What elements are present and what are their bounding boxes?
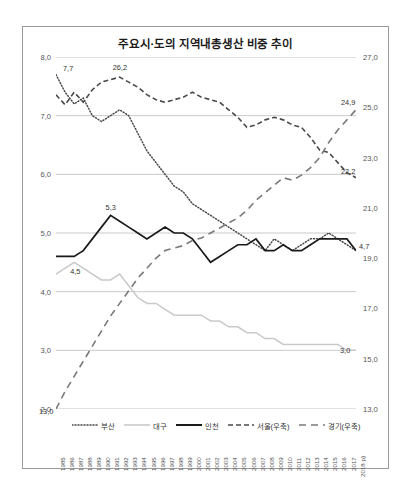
- x-tick-label: 2018 p): [359, 456, 366, 477]
- y-tick-left: 4,0: [25, 288, 51, 297]
- legend-label: 인천: [205, 420, 219, 431]
- legend-swatch-icon: [228, 421, 254, 429]
- chart-title: 주요시·도의 지역내총생산 비중 추이: [23, 35, 388, 51]
- x-tick-label: 1986: [68, 457, 75, 471]
- x-tick-label: 2015: [331, 457, 338, 471]
- legend-item-서울우축[interactable]: 서울(우축): [228, 420, 290, 431]
- x-axis-labels: 1985198619871988198919901991199219931994…: [56, 433, 356, 483]
- y-tick-right: 23,0: [363, 154, 378, 163]
- y-tick-left: 3,0: [25, 346, 51, 355]
- plot-area: [56, 57, 356, 409]
- x-tick-label: 2005: [240, 457, 247, 471]
- legend-label: 부산: [101, 420, 115, 431]
- legend-item-경기우축[interactable]: 경기(우축): [299, 420, 361, 431]
- y-tick-left: 5,0: [25, 229, 51, 238]
- legend-swatch-icon: [299, 421, 325, 429]
- legend-label: 대구: [153, 420, 167, 431]
- series-line-경기우축: [56, 110, 356, 409]
- data-label: 26,2: [113, 63, 127, 72]
- y-tick-left: 6,0: [25, 170, 51, 179]
- legend-item-부산[interactable]: 부산: [72, 420, 115, 431]
- x-tick-label: 2009: [277, 457, 284, 471]
- data-label: 3,0: [340, 346, 350, 355]
- x-tick-label: 2008: [268, 457, 275, 471]
- series-line-대구: [56, 262, 356, 350]
- legend-swatch-icon: [176, 421, 202, 429]
- data-label: 13,0: [39, 407, 53, 416]
- legend-item-대구[interactable]: 대구: [124, 420, 167, 431]
- y-tick-right: 19,0: [363, 254, 378, 263]
- x-tick-label: 2000: [195, 457, 202, 471]
- x-tick-label: 1989: [95, 457, 102, 471]
- chart-screenshot: 주요시·도의 지역내총생산 비중 추이 8,07,06,05,04,03,02,…: [0, 0, 411, 495]
- x-tick-label: 1998: [177, 457, 184, 471]
- x-tick-label: 2007: [259, 457, 266, 471]
- x-tick-label: 2017: [350, 457, 357, 471]
- data-label: 24,9: [341, 98, 355, 107]
- x-tick-label: 1996: [159, 457, 166, 471]
- x-tick-label: 1995: [150, 457, 157, 471]
- data-label: 22,2: [341, 167, 355, 176]
- x-tick-label: 1988: [86, 457, 93, 471]
- x-tick-label: 2010: [286, 457, 293, 471]
- x-tick-label: 2013: [313, 457, 320, 471]
- data-label: 4,7: [359, 242, 369, 251]
- plot-svg: [56, 57, 356, 409]
- x-tick-label: 2016: [340, 457, 347, 471]
- chart-frame: 주요시·도의 지역내총생산 비중 추이 8,07,06,05,04,03,02,…: [22, 26, 389, 469]
- gridlines: [56, 57, 356, 409]
- legend-item-인천[interactable]: 인천: [176, 420, 219, 431]
- x-tick-label: 1994: [140, 457, 147, 471]
- y-tick-right: 25,0: [363, 103, 378, 112]
- x-tick-label: 2003: [222, 457, 229, 471]
- x-tick-label: 2006: [250, 457, 257, 471]
- x-tick-label: 1993: [131, 457, 138, 471]
- data-label: 4,5: [70, 267, 80, 276]
- y-tick-right: 17,0: [363, 304, 378, 313]
- x-tick-label: 2012: [304, 457, 311, 471]
- y-tick-right: 27,0: [363, 53, 378, 62]
- y-tick-right: 15,0: [363, 355, 378, 364]
- series-line-부산: [56, 75, 356, 251]
- y-tick-left: 8,0: [25, 53, 51, 62]
- legend-swatch-icon: [72, 421, 98, 429]
- x-tick-label: 2001: [204, 457, 211, 471]
- x-tick-label: 2002: [213, 457, 220, 471]
- legend-swatch-icon: [124, 421, 150, 429]
- x-tick-label: 1990: [104, 457, 111, 471]
- x-tick-label: 2011: [295, 458, 302, 471]
- series-line-서울우축: [56, 77, 356, 178]
- y-tick-right: 21,0: [363, 204, 378, 213]
- chart-legend: 부산대구인천서울(우축)경기(우축): [56, 417, 376, 433]
- x-tick-label: 1985: [59, 457, 66, 471]
- x-tick-label: 1992: [122, 457, 129, 471]
- x-tick-label: 1987: [77, 457, 84, 471]
- y-tick-left: 7,0: [25, 112, 51, 121]
- x-tick-label: 2014: [322, 457, 329, 471]
- x-tick-label: 1999: [186, 457, 193, 471]
- legend-label: 경기(우축): [328, 420, 361, 431]
- legend-label: 서울(우축): [257, 420, 290, 431]
- x-tick-label: 2004: [231, 457, 238, 471]
- x-tick-label: 1991: [113, 457, 120, 471]
- series-lines: [56, 75, 356, 409]
- x-tick-label: 1997: [168, 457, 175, 471]
- data-label: 5,3: [106, 203, 116, 212]
- data-label: 7,7: [63, 64, 73, 73]
- y-tick-right: 13,0: [363, 405, 378, 414]
